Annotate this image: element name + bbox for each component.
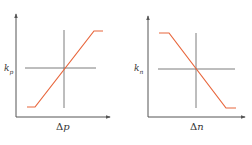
right-response-curve — [159, 33, 236, 108]
left-x-label-var: p — [63, 121, 69, 132]
left-y-label-sub: p — [9, 68, 13, 75]
left-plot — [16, 14, 110, 117]
right-plot — [148, 16, 245, 117]
right-x-label-var: n — [197, 121, 203, 132]
right-y-label-sub: n — [139, 68, 143, 75]
left-y-axis-label: kp — [4, 63, 13, 75]
left-response-curve — [27, 31, 103, 107]
right-y-axis-label: kn — [134, 63, 143, 75]
left-x-axis-label: Δp — [56, 121, 70, 132]
right-x-axis-label: Δn — [190, 121, 204, 132]
diagram-canvas — [0, 0, 252, 145]
